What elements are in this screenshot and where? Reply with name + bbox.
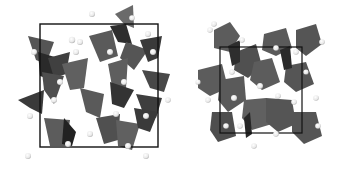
- tetrahedra-group: [18, 5, 170, 150]
- right-structure-panel: [195, 21, 324, 149]
- left-structure-panel: [18, 5, 171, 159]
- crystal-structure-figure: [0, 0, 340, 174]
